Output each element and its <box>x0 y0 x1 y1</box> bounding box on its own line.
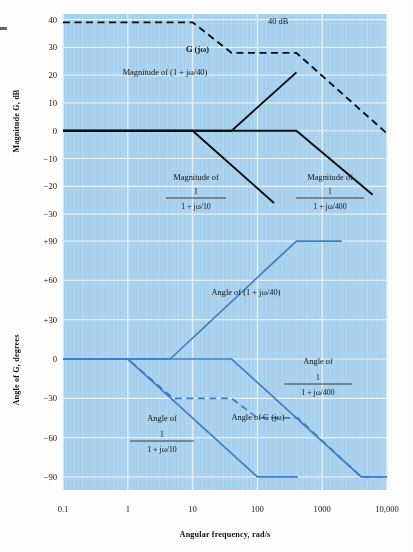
magnitude-tick-label: −10 <box>44 154 57 164</box>
frequency-tick-label: 1 <box>126 504 130 514</box>
angle-tick-label: −60 <box>44 433 57 443</box>
annotation-angle-lead: Angle of (1 + jω/40) <box>212 288 281 297</box>
annotation-magnitude-lag10-denominator: 1 + jω/10 <box>181 202 211 211</box>
annotation-angle-lag10-head: Angle of <box>147 414 177 423</box>
frequency-tick-label: 0.1 <box>58 504 69 514</box>
annotation-angle-lag400-numerator: 1 <box>316 373 320 382</box>
annotation-magnitude-lag10-head: Magnitude of <box>173 173 219 182</box>
angle-tick-label: +90 <box>44 236 57 246</box>
annotation-angle-lag400-head: Angle of <box>303 357 333 366</box>
annotation-magnitude-lag400-head: Magnitude of <box>307 173 353 182</box>
annotation-40db: 40 dB <box>268 17 289 26</box>
angle-tick-label: +30 <box>44 315 57 325</box>
frequency-tick-label: 1000 <box>314 504 331 514</box>
angle-tick-label: 0 <box>53 354 57 364</box>
annotation-angle-lag400-denominator: 1 + jω/400 <box>301 388 334 397</box>
annotation-g-jw: G (jω) <box>186 45 209 54</box>
frequency-axis-title: Angular frequency, rad/s <box>180 530 271 539</box>
magnitude-plot-background <box>63 14 387 228</box>
annotation-magnitude-lag10-numerator: 1 <box>194 187 198 196</box>
magnitude-tick-label: 40 <box>48 15 57 25</box>
annotation-magnitude-lag400-numerator: 1 <box>328 187 332 196</box>
magnitude-tick-label: 0 <box>53 126 57 136</box>
magnitude-tick-label: 30 <box>48 42 57 52</box>
annotation-angle-g: Angle of G (jω) <box>231 413 284 422</box>
magnitude-axis-title: Magnitude G, dB <box>12 89 21 152</box>
magnitude-tick-label: 20 <box>48 70 57 80</box>
angle-tick-label: −90 <box>44 472 57 482</box>
angle-tick-label: −30 <box>44 393 57 403</box>
frequency-tick-label: 10,000 <box>375 504 399 514</box>
annotation-angle-lag10-numerator: 1 <box>160 430 164 439</box>
magnitude-tick-label: 10 <box>48 98 57 108</box>
bode-plot-figure: 403020100−10−20−30+90+60+300−30−60−900.1… <box>0 0 413 552</box>
annotation-magnitude-lead: Magnitude of (1 + jω/40) <box>123 68 208 77</box>
annotation-magnitude-lag400-denominator: 1 + jω/400 <box>313 202 346 211</box>
frequency-tick-label: 100 <box>251 504 264 514</box>
frequency-tick-label: 10 <box>188 504 197 514</box>
magnitude-tick-label: −20 <box>44 181 57 191</box>
bode-plot-svg: 403020100−10−20−30+90+60+300−30−60−900.1… <box>0 0 413 552</box>
angle-tick-label: +60 <box>44 275 57 285</box>
angle-axis-title: Angle of G, degrees <box>12 335 21 406</box>
magnitude-tick-label: −30 <box>44 209 57 219</box>
annotation-angle-lag10-denominator: 1 + jω/10 <box>147 445 177 454</box>
